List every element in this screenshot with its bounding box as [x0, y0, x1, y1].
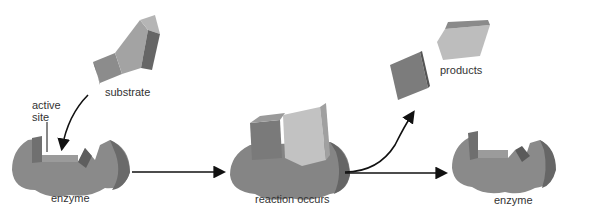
diagram-canvas	[0, 0, 596, 218]
products-shape	[390, 20, 490, 100]
active-site-label-line2: site	[32, 111, 49, 123]
reaction-occurs-label: reaction occurs	[255, 193, 330, 205]
substrate-label: substrate	[105, 86, 150, 98]
substrate-shape	[93, 15, 160, 85]
release-arrow	[345, 113, 413, 172]
enzyme-right-label: enzyme	[494, 194, 533, 206]
active-site-label-line1: active	[32, 99, 61, 111]
enzyme-left-label: enzyme	[51, 192, 90, 204]
products-label: products	[440, 64, 482, 76]
complex-shape	[230, 103, 350, 200]
enzyme-diagram: substrate active site products enzyme re…	[0, 0, 596, 218]
binding-arrow	[62, 95, 88, 148]
enzyme-left-shape	[12, 136, 130, 197]
enzyme-right-shape	[452, 131, 556, 193]
